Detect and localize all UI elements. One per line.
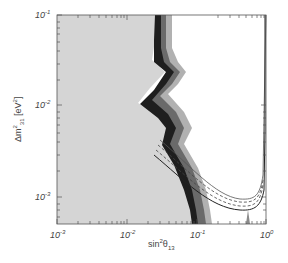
x-axis-label: sin2θ13 bbox=[148, 238, 175, 251]
ylabel-main: Δm bbox=[13, 128, 23, 142]
ylabel-unit: [eV bbox=[13, 102, 23, 118]
x-tick-label-1e-2: 10-2 bbox=[120, 229, 135, 240]
tick-base: 10 bbox=[35, 10, 45, 20]
tick-exp: -1 bbox=[200, 229, 205, 235]
xlabel-sub: 13 bbox=[168, 245, 175, 251]
tick-exp: 0 bbox=[270, 229, 273, 235]
tick-base: 10 bbox=[190, 230, 200, 240]
tick-base: 10 bbox=[50, 230, 60, 240]
chart-plot bbox=[0, 0, 288, 263]
x-tick-label-1e0: 100 bbox=[260, 229, 273, 240]
xlabel-main: sin bbox=[148, 239, 160, 249]
y-axis-label: Δm231 [eV2] bbox=[12, 97, 25, 142]
ylabel-sup: 2 bbox=[12, 125, 18, 128]
ylabel-sub: 31 bbox=[19, 118, 25, 125]
tick-exp: -3 bbox=[60, 229, 65, 235]
tick-exp: -1 bbox=[45, 9, 50, 15]
x-tick-label-1e-3: 10-3 bbox=[50, 229, 65, 240]
tick-base: 10 bbox=[35, 100, 45, 110]
y-tick-label-1e-1: 10-1 bbox=[35, 9, 50, 20]
ylabel-unit-close: ] bbox=[13, 97, 23, 100]
y-tick-label-1e-3: 10-3 bbox=[35, 191, 50, 202]
tick-exp: -2 bbox=[130, 229, 135, 235]
ylabel-unit-sup: 2 bbox=[12, 99, 18, 102]
tick-base: 10 bbox=[260, 230, 270, 240]
x-tick-label-1e-1: 10-1 bbox=[190, 229, 205, 240]
tick-base: 10 bbox=[35, 192, 45, 202]
tick-base: 10 bbox=[120, 230, 130, 240]
tick-exp: -3 bbox=[45, 191, 50, 197]
y-tick-label-1e-2: 10-2 bbox=[35, 99, 50, 110]
tick-exp: -2 bbox=[45, 99, 50, 105]
